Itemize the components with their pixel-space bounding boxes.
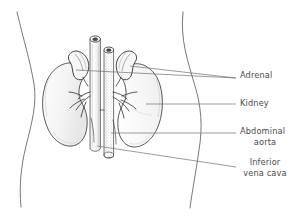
label-abdominal-aorta-line2: aorta bbox=[254, 137, 276, 147]
inferior-vena-cava bbox=[90, 36, 100, 151]
label-inferior-vena-cava-line2: vena cava bbox=[243, 168, 286, 178]
ivc-opening-lumen bbox=[93, 38, 98, 41]
aorta-opening-lumen bbox=[107, 49, 111, 52]
label-abdominal-aorta-line1: Abdominal bbox=[240, 126, 285, 136]
anatomy-figure: Adrenal Kidney Abdominal aorta Inferior … bbox=[0, 0, 299, 224]
abdominal-aorta bbox=[104, 47, 114, 158]
label-kidney: Kidney bbox=[240, 98, 269, 108]
label-adrenal: Adrenal bbox=[240, 70, 272, 80]
aorta-shaft bbox=[104, 50, 114, 158]
label-inferior-vena-cava-line1: Inferior bbox=[250, 157, 281, 167]
anatomy-illustration: Adrenal Kidney Abdominal aorta Inferior … bbox=[0, 0, 299, 224]
